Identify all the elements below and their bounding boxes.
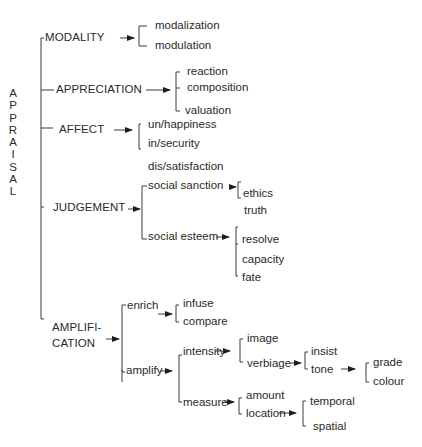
system-modality: MODALITY xyxy=(45,32,105,44)
subsystem-social-esteem: social esteem xyxy=(148,231,218,243)
option-reaction: reaction xyxy=(187,66,228,78)
option-image: image xyxy=(247,333,278,345)
option-amount: amount xyxy=(246,390,284,402)
option-modulation: modulation xyxy=(155,40,211,52)
option-modalization: modalization xyxy=(155,20,220,32)
system-judgement: JUDGEMENT xyxy=(53,202,125,214)
option-colour: colour xyxy=(373,376,404,388)
option-grade: grade xyxy=(373,357,402,369)
subsystem-social-sanction: social sanction xyxy=(148,180,223,192)
root-letter: A xyxy=(7,87,19,99)
root-letter: A xyxy=(7,173,19,185)
subsystem-intensity: intensity xyxy=(183,346,225,358)
subsystem-amplify: amplify xyxy=(126,365,162,377)
system-affect: AFFECT xyxy=(59,124,104,136)
option-resolve: resolve xyxy=(242,234,279,246)
appraisal-system-network: A P P R A I S A L MODALITY modalization … xyxy=(0,0,422,447)
option-capacity: capacity xyxy=(242,254,284,266)
root-letter: S xyxy=(7,161,19,173)
option-insist: insist xyxy=(311,346,337,358)
option-un-happiness: un/happiness xyxy=(148,119,216,131)
system-amplification-line1: AMPLIFI- xyxy=(52,322,101,334)
root-letter: P xyxy=(7,99,19,111)
root-label-appraisal: A P P R A I S A L xyxy=(7,87,19,198)
option-composition: composition xyxy=(187,82,248,94)
option-fate: fate xyxy=(242,272,261,284)
option-dis-satisfaction: dis/satisfaction xyxy=(148,161,223,173)
option-truth: truth xyxy=(244,205,267,217)
option-compare: compare xyxy=(183,316,228,328)
subsystem-verbiage: verbiage xyxy=(247,358,291,370)
option-temporal: temporal xyxy=(310,396,355,408)
option-spatial: spatial xyxy=(313,421,346,433)
option-infuse: infuse xyxy=(183,298,214,310)
root-letter: R xyxy=(7,124,19,136)
option-ethics: ethics xyxy=(243,188,273,200)
system-amplification-line2: CATION xyxy=(52,338,95,350)
root-letter: L xyxy=(7,185,19,197)
root-letter: A xyxy=(7,136,19,148)
option-in-security: in/security xyxy=(148,138,200,150)
option-valuation: valuation xyxy=(185,105,231,117)
subsystem-tone: tone xyxy=(311,364,333,376)
subsystem-enrich: enrich xyxy=(127,300,158,312)
root-letter: P xyxy=(7,112,19,124)
root-letter: I xyxy=(7,148,19,160)
system-appreciation: APPRECIATION xyxy=(56,84,142,96)
subsystem-measure: measure xyxy=(183,397,228,409)
subsystem-location: location xyxy=(246,408,286,420)
